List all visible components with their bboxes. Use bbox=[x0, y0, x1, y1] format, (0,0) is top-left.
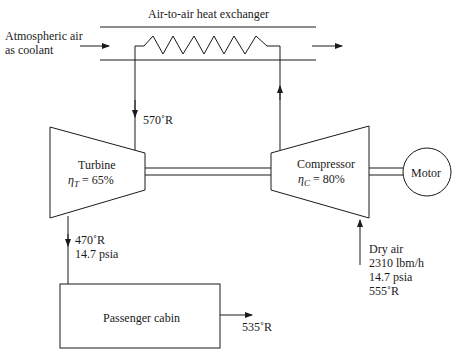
heat-exchanger bbox=[100, 27, 316, 60]
inlet-line-4: 555˚R bbox=[369, 284, 399, 298]
turbine-outlet-pressure: 14.7 psia bbox=[75, 247, 119, 261]
hx-title: Air-to-air heat exchanger bbox=[148, 7, 269, 21]
refrigeration-cycle-diagram: Air-to-air heat exchanger Atmospheric ai… bbox=[0, 0, 467, 363]
cabin-exit-temp: 535˚R bbox=[242, 320, 272, 334]
compressor-efficiency: ηC= 80% bbox=[298, 172, 345, 188]
inlet-line-3: 14.7 psia bbox=[369, 270, 413, 284]
coolant-label-1: Atmospheric air bbox=[5, 29, 83, 43]
cabin-label: Passenger cabin bbox=[103, 311, 180, 325]
turbine-label: Turbine bbox=[78, 158, 116, 172]
compressor-label: Compressor bbox=[297, 157, 355, 171]
inlet-line-2: 2310 lbm/h bbox=[369, 256, 424, 270]
turbine-inlet-temp: 570˚R bbox=[143, 113, 173, 127]
turbine-outlet-temp: 470˚R bbox=[75, 233, 105, 247]
turbine-efficiency: ηT= 65% bbox=[68, 173, 114, 189]
coolant-label-2: as coolant bbox=[5, 43, 54, 57]
inlet-line-1: Dry air bbox=[369, 242, 403, 256]
hx-coil bbox=[135, 36, 280, 60]
motor-label: Motor bbox=[411, 166, 441, 180]
